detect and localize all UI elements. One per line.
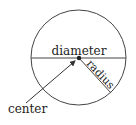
- radius-label: radius: [84, 57, 118, 92]
- center-arrow: [26, 61, 75, 103]
- circle-diagram: diameter radius center: [0, 0, 136, 125]
- center-label: center: [8, 102, 47, 116]
- diameter-label: diameter: [52, 44, 107, 58]
